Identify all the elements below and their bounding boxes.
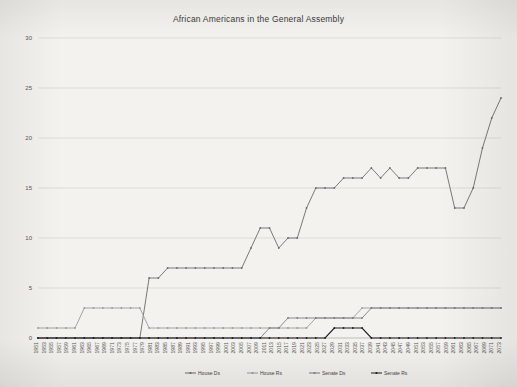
x-tick-label: 2031 <box>337 342 343 354</box>
data-point <box>259 337 261 339</box>
data-point <box>417 307 419 309</box>
data-point <box>296 337 298 339</box>
x-tick-label: 1983 <box>154 342 160 354</box>
data-point <box>250 247 252 249</box>
x-tick-label: 1963 <box>79 342 85 354</box>
x-tick-label: 1997 <box>208 342 214 354</box>
x-tick-label: 1981 <box>147 342 153 354</box>
data-point <box>306 337 308 339</box>
x-tick-label: 2009 <box>253 342 259 354</box>
data-point <box>296 327 298 329</box>
data-point <box>232 267 234 269</box>
x-tick-label: 2065 <box>466 342 472 354</box>
x-tick-label: 2037 <box>359 342 365 354</box>
x-tick-label: 1971 <box>109 342 115 354</box>
legend-marker <box>375 372 377 374</box>
data-point <box>500 337 502 339</box>
data-point <box>46 337 48 339</box>
x-tick-label: 2001 <box>223 342 229 354</box>
data-point <box>426 337 428 339</box>
legend-marker <box>251 372 253 374</box>
data-point <box>324 317 326 319</box>
y-tick-label: 25 <box>25 85 32 91</box>
x-tick-label: 2025 <box>314 342 320 354</box>
data-point <box>463 307 465 309</box>
x-tick-label: 2071 <box>488 342 494 354</box>
data-point <box>445 337 447 339</box>
data-point <box>65 327 67 329</box>
x-tick-label: 2047 <box>397 342 403 354</box>
data-point <box>343 177 345 179</box>
data-point <box>157 327 159 329</box>
y-tick-label: 0 <box>29 335 33 341</box>
x-tick-label: 1961 <box>71 342 77 354</box>
data-point <box>315 187 317 189</box>
data-point <box>352 317 354 319</box>
x-tick-label: 2061 <box>450 342 456 354</box>
data-point <box>278 247 280 249</box>
chart-container: African Americans in the General Assembl… <box>0 0 517 387</box>
data-point <box>250 337 252 339</box>
x-tick-label: 1999 <box>215 342 221 354</box>
data-point <box>472 337 474 339</box>
data-point <box>93 337 95 339</box>
x-tick-label: 1969 <box>101 342 107 354</box>
data-point <box>482 307 484 309</box>
data-point <box>46 327 48 329</box>
x-tick-label: 2019 <box>291 342 297 354</box>
data-point <box>130 337 132 339</box>
data-point <box>167 327 169 329</box>
data-point <box>333 317 335 319</box>
x-tick-label: 2011 <box>261 342 267 353</box>
x-tick-label: 2069 <box>481 342 487 354</box>
y-tick-label: 30 <box>25 35 32 41</box>
legend-label: Senate Ds <box>322 370 346 376</box>
data-point <box>176 337 178 339</box>
data-point <box>306 327 308 329</box>
data-point <box>408 337 410 339</box>
data-point <box>167 337 169 339</box>
data-point <box>278 327 280 329</box>
x-tick-label: 2013 <box>268 342 274 354</box>
data-point <box>232 337 234 339</box>
x-tick-label: 2015 <box>276 342 282 354</box>
data-point <box>269 327 271 329</box>
data-point <box>185 327 187 329</box>
data-point <box>37 337 39 339</box>
data-point <box>352 327 354 329</box>
x-tick-label: 2063 <box>458 342 464 354</box>
data-point <box>417 337 419 339</box>
data-point <box>287 337 289 339</box>
data-point <box>380 337 382 339</box>
x-tick-label: 2027 <box>321 342 327 354</box>
data-point <box>380 307 382 309</box>
x-tick-label: 1951 <box>33 342 39 354</box>
x-tick-label: 2059 <box>443 342 449 354</box>
data-point <box>148 327 150 329</box>
data-point <box>278 337 280 339</box>
data-point <box>241 327 243 329</box>
data-point <box>324 187 326 189</box>
y-tick-label: 10 <box>25 235 32 241</box>
x-tick-label: 2039 <box>367 342 373 354</box>
data-point <box>213 327 215 329</box>
x-tick-label: 2041 <box>375 342 381 354</box>
data-point <box>398 337 400 339</box>
data-point <box>445 307 447 309</box>
data-point <box>56 337 58 339</box>
x-tick-label: 2067 <box>473 342 479 354</box>
series-line-senate-ds <box>38 308 501 338</box>
x-tick-label: 1987 <box>170 342 176 354</box>
x-tick-label: 1977 <box>132 342 138 354</box>
data-point <box>454 307 456 309</box>
x-tick-label: 2051 <box>413 342 419 354</box>
data-point <box>306 207 308 209</box>
x-tick-label: 2035 <box>352 342 358 354</box>
data-point <box>426 167 428 169</box>
data-point <box>472 187 474 189</box>
data-point <box>370 167 372 169</box>
data-point <box>408 177 410 179</box>
data-point <box>222 327 224 329</box>
x-tick-label: 1973 <box>116 342 122 354</box>
data-point <box>157 337 159 339</box>
